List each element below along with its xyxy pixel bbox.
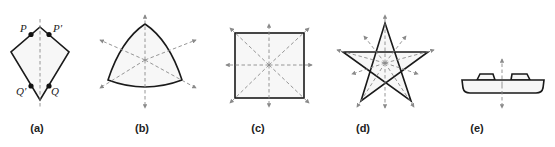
point-q-prime — [28, 83, 33, 88]
caption-a: (a) — [30, 122, 43, 134]
caption-d: (d) — [356, 122, 370, 134]
left-pad — [477, 74, 495, 80]
right-pad — [511, 74, 530, 80]
panel-b-curved-triangle — [100, 15, 196, 108]
panel-a-kite: P P′ Q′ Q — [11, 19, 69, 108]
panel-d-pentagram — [337, 15, 434, 108]
point-p-prime — [46, 32, 51, 37]
label-q: Q — [51, 85, 59, 97]
point-p — [28, 32, 33, 37]
caption-c: (c) — [251, 122, 264, 134]
caption-b: (b) — [135, 122, 149, 134]
label-q-prime: Q′ — [16, 85, 27, 97]
caption-e: (e) — [470, 122, 483, 134]
label-p-prime: P′ — [52, 22, 63, 34]
label-p: P — [19, 22, 27, 34]
chip-body — [462, 80, 544, 93]
panel-c-square — [226, 24, 312, 107]
panel-e-chip — [462, 59, 544, 108]
